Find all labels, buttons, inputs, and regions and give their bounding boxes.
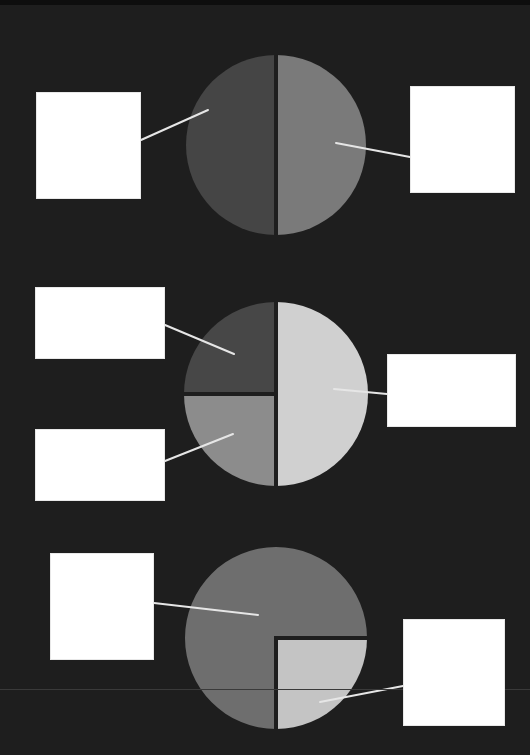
label-box-pie1-right[interactable]: [410, 86, 515, 193]
label-box-pie3-left[interactable]: [50, 553, 154, 660]
label-box-pie3-right[interactable]: [403, 619, 505, 726]
pie3-bottom-right-quarter-slice: [276, 638, 367, 729]
label-box-pie2-bottom-left[interactable]: [35, 429, 165, 501]
pie1-right-half-slice: [276, 55, 366, 235]
pie2-bottom-left-quarter-slice: [184, 394, 276, 486]
pie2-top-left-quarter-slice: [184, 302, 276, 394]
pie-quarters-half: [182, 300, 368, 488]
label-box-pie2-top-left[interactable]: [35, 287, 165, 359]
label-box-pie2-right[interactable]: [387, 354, 516, 427]
pie-halves: [186, 54, 366, 236]
pie-three-quarters: [185, 547, 369, 731]
label-box-pie1-left[interactable]: [36, 92, 141, 199]
pie2-right-half-slice: [276, 302, 368, 486]
pie1-left-half-slice: [186, 55, 276, 235]
